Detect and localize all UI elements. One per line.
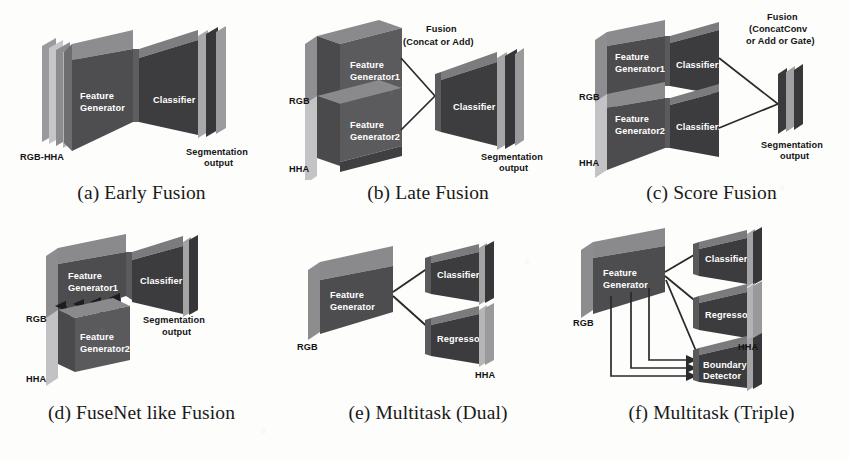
block-classifier-1 — [665, 22, 719, 95]
input-label-hha: HHA — [579, 158, 599, 168]
block-label-feature-2: Feature — [350, 120, 384, 130]
output-label-output: output — [499, 163, 528, 173]
block-label-feature: Feature — [80, 91, 114, 101]
block-classifier-2 — [665, 84, 719, 157]
output-label-hha: HHA — [475, 370, 495, 380]
output-label-output: output — [162, 327, 191, 337]
block-label-boundary: Boundary — [703, 360, 747, 370]
regressor-output-plates — [747, 281, 762, 341]
output-label-segmentation: Segmentation — [481, 152, 543, 162]
block-label-regressor: Regressor — [705, 310, 752, 320]
panel-d: Feature Generator1 Classifier Add — [0, 222, 283, 459]
block-classifier — [435, 52, 497, 146]
block-label-feature-1: Feature — [350, 60, 384, 70]
panel-c: Feature Generator1 Classifier1 Feature G… — [573, 0, 850, 200]
block-label-generator-2: Generator2 — [615, 126, 665, 136]
panel-a: Feature Generator Classifier RGB-HHA Seg… — [0, 0, 283, 200]
input-label-rgb: RGB — [579, 92, 600, 102]
panel-c-diagram: Feature Generator1 Classifier1 Feature G… — [573, 0, 850, 180]
regressor-output-plates — [479, 303, 494, 367]
block-classifier — [126, 236, 183, 314]
panel-a-diagram: Feature Generator Classifier RGB-HHA Seg… — [0, 0, 283, 180]
input-label-rgb: RGB — [289, 96, 310, 106]
block-label-generator-1: Generator1 — [68, 283, 118, 293]
fusion-label-line-1: Fusion — [426, 24, 457, 34]
block-label-feature-1: Feature — [615, 52, 649, 62]
output-label-output: output — [780, 151, 809, 161]
input-plane-rgb — [308, 262, 320, 340]
input-plane-rgb — [581, 242, 593, 318]
output-plane-stack — [497, 48, 524, 150]
fusion-label-line-1: Fusion — [767, 12, 798, 22]
caption-c: (c) Score Fusion — [573, 182, 850, 204]
block-label-classifier: Classifier — [140, 276, 183, 286]
block-label-generator-2: Generator2 — [350, 132, 400, 142]
classifier-output-plates — [479, 241, 494, 305]
input-label-hha: HHA — [26, 374, 46, 384]
caption-f: (f) Multitask (Triple) — [573, 402, 850, 424]
block-label-regressor: Regressor — [437, 334, 484, 344]
block-label-classifier: Classifier — [453, 102, 496, 112]
input-label-rgb: RGB — [297, 342, 318, 352]
panel-f-diagram: Feature Generator Classifier — [573, 222, 850, 397]
caption-b: (b) Late Fusion — [283, 182, 573, 204]
block-label-generator: Generator — [603, 280, 648, 290]
caption-a: (a) Early Fusion — [0, 182, 283, 204]
input-label-rgb: RGB — [573, 318, 594, 328]
panel-d-diagram: Feature Generator1 Classifier Add — [0, 222, 283, 397]
input-label-rgb-hha: RGB-HHA — [20, 152, 64, 162]
input-plane-hha — [46, 310, 58, 386]
block-label-feature: Feature — [603, 268, 637, 278]
panel-e: Feature Generator Classifier Regressor — [283, 222, 573, 459]
block-label-feature-2: Feature — [615, 114, 649, 124]
panel-e-diagram: Feature Generator Classifier Regressor — [283, 222, 573, 397]
block-label-classifier-1: Classifier1 — [676, 60, 724, 70]
fusion-connectors — [719, 58, 778, 128]
output-label-segmentation: Segmentation — [761, 140, 823, 150]
output-label-segmentation: Segmentation — [143, 315, 205, 325]
caption-d: (d) FuseNet like Fusion — [0, 402, 283, 424]
block-label-generator-2: Generator2 — [80, 344, 130, 354]
caption-e: (e) Multitask (Dual) — [283, 402, 573, 424]
panel-b-diagram: Feature Generator1 Feature Generator2 Cl… — [283, 0, 573, 180]
block-label-feature-1: Feature — [68, 271, 102, 281]
block-label-classifier: Classifier — [705, 254, 748, 264]
fusion-connectors — [401, 58, 435, 130]
figure-root: Feature Generator Classifier RGB-HHA Seg… — [0, 0, 850, 459]
block-label-generator: Generator — [80, 103, 125, 113]
fusion-label-line-2: (Concat or Add) — [403, 37, 474, 47]
block-label-classifier: Classifier — [153, 95, 196, 105]
block-label-detector: Detector — [703, 371, 741, 381]
output-plane-stack — [183, 235, 198, 317]
output-label-hha: HHA — [738, 342, 758, 352]
block-label-generator: Generator — [330, 302, 375, 312]
block-label-generator-1: Generator1 — [615, 64, 665, 74]
block-classifier — [133, 30, 198, 135]
output-label-segmentation: Segmentation — [186, 147, 248, 157]
input-label-rgb: RGB — [26, 314, 47, 324]
output-plane-stack — [778, 64, 803, 134]
output-label-output: output — [204, 158, 233, 168]
block-label-feature: Feature — [330, 290, 364, 300]
panel-b: Feature Generator1 Feature Generator2 Cl… — [283, 0, 573, 200]
classifier-output-plates — [747, 227, 762, 287]
block-label-classifier: Classifier — [437, 270, 480, 280]
block-label-feature-2: Feature — [80, 332, 114, 342]
output-plane-stack — [198, 26, 226, 138]
fusion-label-line-2: (ConcatConv — [749, 24, 808, 34]
fusion-label-line-3: or Add or Gate) — [746, 36, 815, 46]
block-label-classifier-2: Classifier2 — [676, 122, 724, 132]
input-label-hha: HHA — [289, 164, 309, 174]
block-label-generator-1: Generator1 — [350, 72, 400, 82]
panel-f: Feature Generator Classifier — [573, 222, 850, 459]
